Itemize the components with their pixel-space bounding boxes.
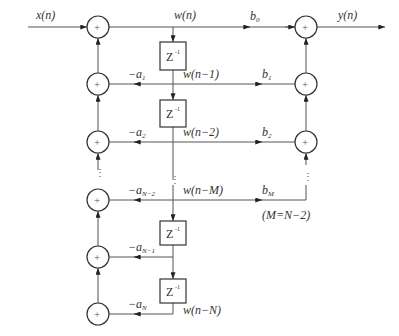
delay-block-2: Z-1 [160,100,186,127]
adder-left-M: + [87,189,109,211]
a2-label: −a2 [128,125,146,140]
bM-label: bM [262,183,275,198]
note-label: (M=N−2) [262,208,310,222]
aN2-label: −aN−2 [128,183,156,198]
input-label: x(n) [35,8,55,22]
svg-text:-1: -1 [175,106,180,112]
wM-label: w(n−M) [183,183,223,197]
aN1-label: −aN−1 [128,240,155,255]
svg-text:+: + [94,21,100,33]
wN-label: w(n−N) [183,303,221,317]
w2-label: w(n−2) [183,125,219,139]
svg-text:+: + [94,136,100,148]
output-label: y(n) [337,8,357,22]
a1-label: −a1 [128,67,146,82]
signal-flow-diagram: x(n) w(n) b0 y(n) ⋮ Z-1 Z-1 Z-1 Z-1 −a1 … [0,0,399,336]
svg-text:+: + [94,78,100,90]
adder-left-N1: + [87,246,109,268]
svg-text:+: + [302,136,308,148]
svg-text:-1: -1 [175,284,180,290]
svg-text:+: + [302,78,308,90]
svg-text:Z: Z [166,107,173,121]
svg-text:+: + [94,308,100,320]
svg-text:Z: Z [166,227,173,241]
w0-label: w(n) [174,8,196,22]
adder-right-1: + [295,73,317,95]
ellipsis-center: ⋮ [170,174,180,185]
ellipsis-right: ⋮ [303,171,313,182]
delay-block-n-1: Z-1 [160,221,186,245]
delay-block-1: Z-1 [160,42,186,70]
w1-label: w(n−1) [183,67,219,81]
svg-text:Z: Z [166,285,173,299]
svg-text:+: + [94,251,100,263]
adder-left-N: + [87,303,109,325]
svg-text:Z: Z [166,50,173,64]
b1-label: b1 [262,67,272,82]
b0-label: b0 [250,9,260,24]
svg-text:-1: -1 [175,49,180,55]
delay-block-n: Z-1 [160,279,186,303]
svg-text:+: + [94,194,100,206]
svg-text:+: + [302,21,308,33]
adder-left-2: + [87,131,109,153]
adder-left-0: + [87,16,109,38]
svg-text:-1: -1 [175,226,180,232]
adder-right-2: + [295,131,317,153]
ellipsis-left: ⋮ [95,167,105,178]
b2-label: b2 [262,125,272,140]
adder-left-1: + [87,73,109,95]
adder-right-0: + [295,16,317,38]
aN-label: −aN [128,297,147,312]
